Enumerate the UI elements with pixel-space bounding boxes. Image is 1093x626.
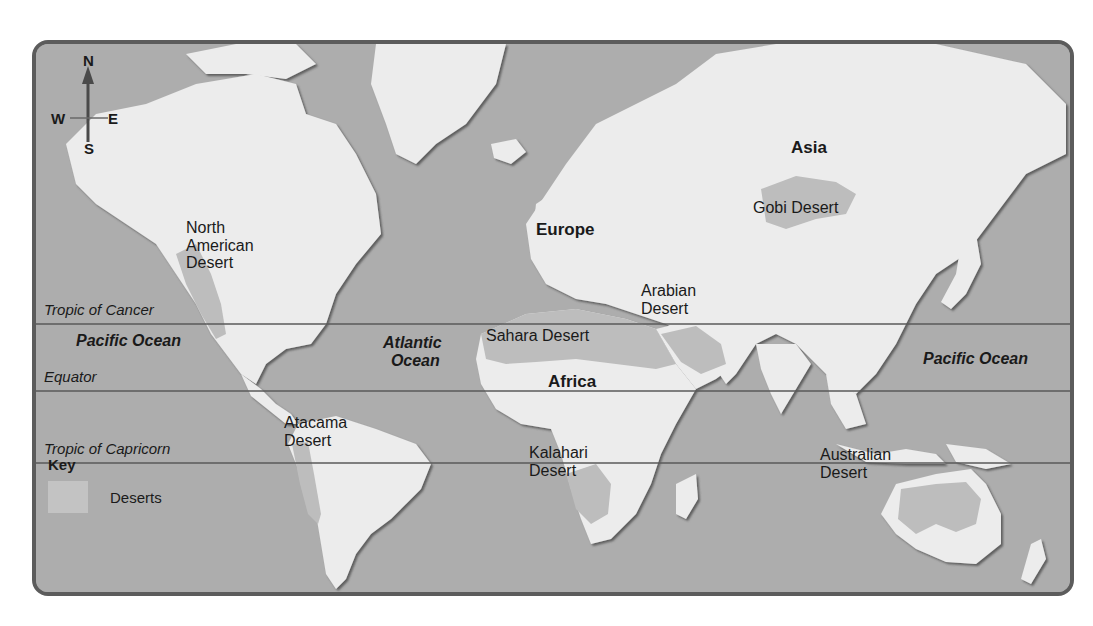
atlantic-ocean-line1: Atlantic (383, 334, 442, 352)
sahara-desert-label: Sahara Desert (486, 327, 589, 345)
atlantic-ocean-label: Atlantic Ocean (383, 334, 442, 369)
north-american-desert-label: North American Desert (186, 219, 254, 272)
map-canvas (36, 44, 1070, 592)
equator-label: Equator (44, 369, 97, 386)
pacific-ocean-west-label: Pacific Ocean (76, 332, 181, 350)
atacama-desert-label: Atacama Desert (284, 414, 347, 449)
compass-north: N (83, 52, 94, 69)
compass-west: W (51, 110, 65, 127)
key-title: Key (48, 456, 162, 473)
compass-east: E (108, 110, 118, 127)
arabian-desert-label: Arabian Desert (641, 282, 696, 317)
kalahari-desert-label: Kalahari Desert (529, 444, 588, 479)
compass-south: S (84, 140, 94, 157)
world-deserts-map: N W E S Tropic of Cancer Equator Tropic … (32, 40, 1074, 596)
australian-desert-label: Australian Desert (820, 446, 891, 481)
map-key: Key Deserts (48, 456, 162, 513)
pacific-ocean-east-label: Pacific Ocean (923, 350, 1028, 368)
gobi-desert-label: Gobi Desert (753, 199, 838, 217)
atlantic-ocean-line2: Ocean (383, 352, 442, 370)
europe-label: Europe (536, 221, 595, 240)
africa-label: Africa (548, 373, 596, 392)
compass-rose: N W E S (48, 52, 118, 152)
desert-swatch-icon (48, 481, 88, 513)
key-item-label: Deserts (110, 489, 162, 506)
key-item-deserts: Deserts (48, 481, 162, 513)
tropic-of-cancer-label: Tropic of Cancer (44, 302, 154, 319)
asia-label: Asia (791, 139, 827, 158)
